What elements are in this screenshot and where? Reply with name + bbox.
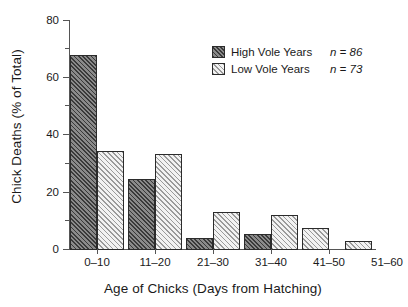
y-minor-tick-70 [65, 48, 69, 49]
legend-label-low-vole-years: Low Vole Years [231, 63, 310, 75]
bar-low-21-30 [213, 212, 240, 250]
legend-row-low-vole-years: Low Vole Years n = 73 [212, 61, 312, 76]
y-tick-20 [63, 192, 69, 193]
bar-low-51-60 [345, 241, 372, 250]
y-tick-0 [63, 249, 69, 250]
legend-swatch-low-vole-years [212, 63, 225, 75]
x-tick-3 [271, 249, 272, 254]
bar-low-0-10 [97, 151, 124, 250]
bar-high-0-10 [70, 55, 97, 250]
y-tick-60 [63, 77, 69, 78]
legend-row-high-vole-years: High Vole Years n = 86 [212, 44, 312, 59]
y-tick-40 [63, 134, 69, 135]
y-tick-label-40: 40 [19, 128, 59, 140]
chart-legend: High Vole Years n = 86 Low Vole Years n … [212, 44, 312, 78]
bar-low-11-20 [155, 154, 182, 250]
legend-n-value-high: n = 86 [330, 46, 362, 58]
y-tick-80 [63, 20, 69, 21]
x-tick-1 [155, 249, 156, 254]
legend-n-value-low: n = 73 [330, 63, 362, 75]
x-tick-label-51-60: 51–60 [352, 256, 408, 268]
y-tick-label-0: 0 [19, 243, 59, 255]
y-axis-title: Chick Deaths (% of Total) [9, 7, 24, 247]
legend-n-high-vole-years: n = 86 [330, 46, 362, 58]
y-minor-tick-30 [65, 163, 69, 164]
y-tick-label-60: 60 [19, 71, 59, 83]
bar-low-41-50 [302, 228, 329, 250]
bar-low-31-40 [271, 215, 298, 250]
bar-high-31-40 [244, 234, 271, 250]
y-minor-tick-10 [65, 220, 69, 221]
x-tick-2 [213, 249, 214, 254]
x-tick-0 [97, 249, 98, 254]
legend-swatch-high-vole-years [212, 46, 225, 58]
y-tick-label-20: 20 [19, 186, 59, 198]
legend-label-high-vole-years: High Vole Years [231, 46, 312, 58]
x-tick-4 [329, 249, 330, 254]
y-tick-label-80: 80 [19, 14, 59, 26]
bar-high-21-30 [186, 238, 213, 250]
x-axis-title: Age of Chicks (Days from Hatching) [48, 281, 378, 296]
bar-high-11-20 [128, 179, 155, 250]
y-minor-tick-50 [65, 105, 69, 106]
legend-n-low-vole-years: n = 73 [330, 63, 362, 75]
